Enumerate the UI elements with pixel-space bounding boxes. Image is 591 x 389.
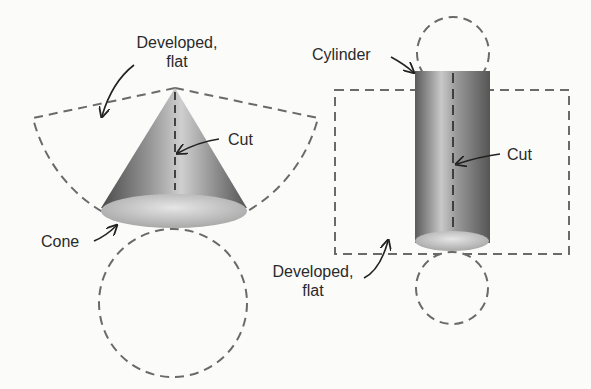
cone-arrow xyxy=(94,226,116,241)
cylinder-developed-label: Developed, flat xyxy=(258,262,368,300)
cone-developed-line2: flat xyxy=(118,52,236,71)
cylinder-cut-label: Cut xyxy=(507,145,532,164)
cone-developed-arrow xyxy=(102,65,134,116)
cone-cut-label: Cut xyxy=(228,130,253,149)
cylinder-developed-line1: Developed, xyxy=(258,262,368,281)
cone-developed-label: Developed, flat xyxy=(118,33,236,71)
cylinder-label: Cylinder xyxy=(312,45,371,64)
cone-developed-line1: Developed, xyxy=(118,33,236,52)
cylinder-developed-line2: flat xyxy=(258,281,368,300)
cone-label: Cone xyxy=(41,232,79,251)
cone-shape xyxy=(101,88,247,228)
cylinder-arrow xyxy=(391,57,413,72)
cylinder-bottom-developed-circle xyxy=(416,252,488,324)
diagram-canvas xyxy=(0,0,591,389)
cone-base-developed-circle xyxy=(99,229,247,377)
cylinder-shape xyxy=(415,71,490,251)
